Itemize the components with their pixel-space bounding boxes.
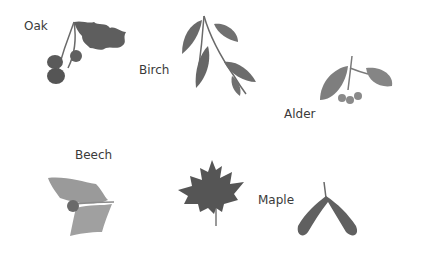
beech-label: Beech xyxy=(75,148,112,162)
alder-leaves-catkins-icon xyxy=(316,54,396,109)
birch-leaves-icon xyxy=(178,14,263,99)
maple-samara-icon xyxy=(294,182,364,242)
oak-leaves-acorns-icon xyxy=(42,18,132,88)
alder-label: Alder xyxy=(284,107,315,121)
birch-label: Birch xyxy=(139,63,169,77)
leaf-identification-sheet: Oak Birch Alder xyxy=(0,0,422,254)
maple-leaf-icon xyxy=(178,158,248,228)
maple-label: Maple xyxy=(258,193,294,207)
beech-leaves-nut-icon xyxy=(46,176,118,236)
